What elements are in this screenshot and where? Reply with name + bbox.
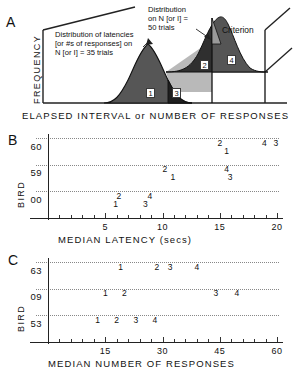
figure-root: A FREQUENCY — [0, 0, 295, 377]
panel-a-region-2: 2 — [200, 60, 209, 70]
panel-a-annotation-right: Distribution on N [or I] = 50 trials — [148, 5, 210, 33]
y-axis-line — [48, 258, 49, 344]
panel-a-x-axis-label: ELAPSED INTERVAL or NUMBER OF RESPONSES — [22, 110, 289, 121]
x-axis-tick-label: 20 — [265, 222, 289, 232]
x-axis-minor-tick — [197, 215, 198, 218]
data-point-label: 1 — [93, 315, 103, 325]
data-point-label: 1 — [168, 172, 178, 182]
data-point-label: 4 — [192, 262, 202, 272]
x-axis-minor-tick — [94, 215, 95, 218]
panel-a-region-1: 1 — [146, 88, 155, 98]
panel-b-x-axis-label: MEDIAN LATENCY (secs) — [58, 234, 192, 245]
data-point-label: 3 — [211, 288, 221, 298]
x-axis-major-tick — [105, 213, 106, 218]
x-axis-minor-tick — [197, 339, 198, 342]
y-axis-category-label: 59 — [14, 167, 42, 178]
x-axis-line — [30, 218, 283, 219]
x-axis-tick-label: 5 — [93, 222, 117, 232]
data-point-label: 1 — [100, 288, 110, 298]
x-axis-minor-tick — [71, 339, 72, 342]
x-axis-minor-tick — [243, 215, 244, 218]
x-axis-tick-label: 45 — [208, 346, 232, 356]
x-axis-minor-tick — [71, 215, 72, 218]
panel-a-annotation-left: Distribution of latencies [or #s of resp… — [55, 30, 155, 58]
y-axis-category-label: 00 — [14, 194, 42, 205]
x-axis-major-tick — [163, 337, 164, 342]
data-point-label: 2 — [119, 288, 129, 298]
gridline — [36, 138, 279, 139]
y-axis-category-label: 60 — [14, 141, 42, 152]
x-axis-minor-tick — [208, 339, 209, 342]
y-axis-line — [48, 134, 49, 220]
x-axis-minor-tick — [174, 339, 175, 342]
x-axis-minor-tick — [185, 215, 186, 218]
x-axis-minor-tick — [82, 215, 83, 218]
x-axis-minor-tick — [140, 339, 141, 342]
x-axis-line — [30, 342, 283, 343]
data-point-label: 2 — [152, 262, 162, 272]
data-point-label: 3 — [165, 262, 175, 272]
data-point-label: 1 — [116, 262, 126, 272]
gridline — [36, 289, 279, 290]
x-axis-minor-tick — [128, 339, 129, 342]
x-axis-minor-tick — [128, 215, 129, 218]
x-axis-minor-tick — [59, 339, 60, 342]
x-axis-major-tick — [220, 337, 221, 342]
x-axis-minor-tick — [266, 339, 267, 342]
data-point-label: 3 — [140, 199, 150, 209]
x-axis-minor-tick — [266, 215, 267, 218]
gridline — [36, 165, 279, 166]
panel-a-criterion-label: Criterion — [222, 25, 254, 35]
x-axis-tick-label: 15 — [208, 222, 232, 232]
x-axis-major-tick — [105, 337, 106, 342]
x-axis-minor-tick — [231, 339, 232, 342]
x-axis-minor-tick — [151, 339, 152, 342]
x-axis-minor-tick — [59, 215, 60, 218]
x-axis-tick-label: 10 — [151, 222, 175, 232]
y-axis-category-label: 63 — [14, 265, 42, 276]
x-axis-minor-tick — [208, 215, 209, 218]
x-axis-minor-tick — [185, 339, 186, 342]
panel-c-x-axis-label: MEDIAN NUMBER OF RESPONSES — [48, 358, 235, 369]
x-axis-minor-tick — [140, 215, 141, 218]
panel-c: C BIRD 15304560630953123412341234 MEDIAN… — [0, 252, 295, 377]
x-axis-minor-tick — [117, 339, 118, 342]
x-axis-minor-tick — [94, 339, 95, 342]
panel-a: A FREQUENCY — [0, 0, 295, 130]
x-axis-tick-label: 60 — [265, 346, 289, 356]
x-axis-major-tick — [277, 337, 278, 342]
panel-b: B BIRD 5101520605900214321432143 MEDIAN … — [0, 130, 295, 252]
data-point-label: 4 — [150, 315, 160, 325]
data-point-label: 1 — [111, 199, 121, 209]
data-point-label: 3 — [271, 138, 281, 148]
data-point-label: 3 — [131, 315, 141, 325]
x-axis-minor-tick — [82, 339, 83, 342]
x-axis-tick-label: 15 — [93, 346, 117, 356]
y-axis-category-label: 53 — [14, 318, 42, 329]
y-axis-category-label: 09 — [14, 291, 42, 302]
x-axis-minor-tick — [243, 339, 244, 342]
data-point-label: 2 — [112, 315, 122, 325]
x-axis-major-tick — [220, 213, 221, 218]
x-axis-major-tick — [163, 213, 164, 218]
x-axis-minor-tick — [231, 215, 232, 218]
data-point-label: 4 — [259, 138, 269, 148]
x-axis-minor-tick — [254, 339, 255, 342]
data-point-label: 1 — [222, 146, 232, 156]
x-axis-tick-label: 30 — [151, 346, 175, 356]
x-axis-minor-tick — [117, 215, 118, 218]
x-axis-minor-tick — [254, 215, 255, 218]
x-axis-major-tick — [277, 213, 278, 218]
data-point-label: 4 — [232, 288, 242, 298]
gridline — [36, 191, 279, 192]
data-point-label: 3 — [225, 172, 235, 182]
panel-a-region-3: 3 — [172, 88, 181, 98]
x-axis-minor-tick — [174, 215, 175, 218]
x-axis-minor-tick — [151, 215, 152, 218]
panel-a-region-4: 4 — [227, 55, 236, 65]
